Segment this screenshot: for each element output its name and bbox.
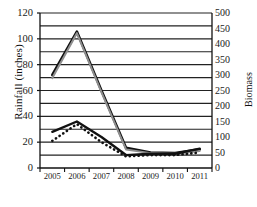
plot-area [0, 0, 257, 207]
data-series-group [52, 32, 199, 157]
chart-container: Rainfall (inches) Biomass 02040608010012… [0, 0, 257, 207]
series-line-biomass-peak-black [52, 32, 199, 154]
